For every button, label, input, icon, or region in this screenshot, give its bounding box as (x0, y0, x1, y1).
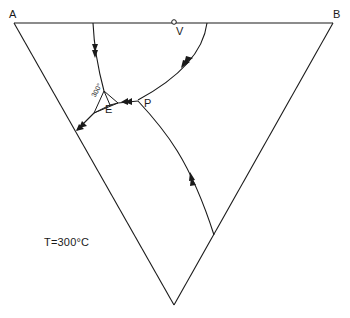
triangle-outline (14, 23, 333, 305)
point-v-marker (172, 20, 177, 25)
point-v-label: V (176, 26, 183, 37)
arrow-icon (92, 44, 98, 58)
arrow-icon (189, 172, 196, 186)
right-boundary-curve (138, 23, 207, 100)
lower-right-curve (138, 101, 214, 235)
vertex-b-label: B (333, 9, 340, 20)
phase-diagram (0, 0, 350, 318)
arrow-icon (181, 56, 193, 68)
point-e-label: E (105, 104, 112, 115)
vertex-a-label: A (9, 9, 16, 20)
arrow-icon (121, 98, 132, 105)
point-p-label: P (144, 98, 151, 109)
temperature-label: T=300°C (44, 236, 89, 248)
arrow-icon (76, 121, 87, 131)
